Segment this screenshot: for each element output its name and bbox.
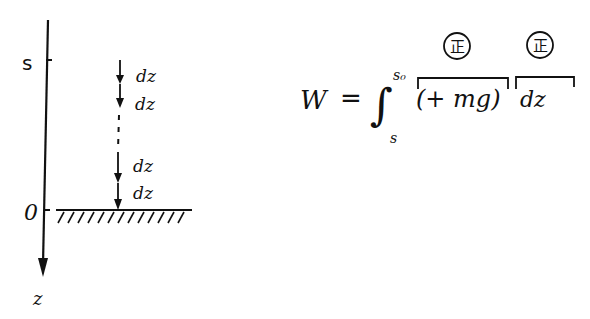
integral-lower-limit: s xyxy=(390,130,397,146)
increment-label-1: dz xyxy=(136,66,157,86)
equation-lhs: W xyxy=(300,85,329,115)
arrow-down-icon xyxy=(114,173,122,183)
increment-label-4: dz xyxy=(133,183,154,203)
increment-path xyxy=(114,60,124,210)
axis-label-s: s xyxy=(22,51,32,75)
integral-upper-limit: s₀ xyxy=(393,67,406,83)
work-equation: W = ∫ s₀ s (+ mg) dz 正 正 xyxy=(300,32,574,146)
increment-label-3: dz xyxy=(133,156,154,176)
axis-label-origin: 0 xyxy=(24,200,38,225)
differential-sign-badge: 正 xyxy=(527,32,553,58)
equation-equals: = xyxy=(340,83,362,113)
differential-term: dz xyxy=(520,87,546,112)
svg-text:正: 正 xyxy=(450,38,465,56)
z-axis xyxy=(38,20,52,277)
arrow-down-icon xyxy=(116,98,124,108)
svg-text:正: 正 xyxy=(533,37,548,55)
force-sign-badge: 正 xyxy=(444,33,470,59)
axis-label-z: z xyxy=(32,288,43,309)
ground-surface xyxy=(56,210,192,223)
axis-arrowhead-icon xyxy=(38,258,48,277)
work-integral-diagram: s 0 z d xyxy=(0,0,590,319)
arrow-down-icon xyxy=(114,199,122,210)
force-term: (+ mg) xyxy=(416,85,501,113)
arrow-down-icon xyxy=(116,75,124,84)
increment-label-2: dz xyxy=(135,94,156,114)
integral-sign: ∫ xyxy=(370,79,393,130)
